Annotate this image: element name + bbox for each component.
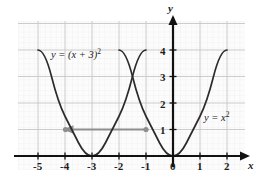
x-tick-label-2: 2 [224, 161, 230, 172]
y-axis-label: y [168, 3, 173, 14]
y-tick-label-3: 3 [160, 72, 166, 83]
arrow-end-dot [63, 127, 68, 132]
x-tick-label-1: 1 [197, 161, 203, 172]
x-tick-label--5: -5 [33, 161, 42, 172]
parabola-plot [0, 0, 263, 181]
x-axis-label: x [248, 160, 254, 171]
y-tick-label-2: 2 [160, 99, 166, 110]
y-tick-label-4: 4 [160, 46, 166, 57]
x-tick-label--2: -2 [114, 161, 123, 172]
x-tick-label--3: -3 [87, 161, 96, 172]
x-tick-label--4: -4 [60, 161, 69, 172]
minor-gridlines [18, 21, 245, 170]
curve-label-right-exponent: 2 [226, 110, 230, 119]
y-tick-label-1: 1 [160, 125, 166, 136]
arrow-start-dot [143, 127, 148, 132]
curve-label-left-parabola: y = (x + 3)2 [51, 50, 101, 61]
x-tick-label--1: -1 [141, 161, 150, 172]
x-tick-label-0: 0 [170, 161, 176, 172]
curve-label-right-parabola: y = x2 [204, 113, 229, 124]
curve-label-right-text: y = x [204, 112, 226, 123]
curve-label-left-exponent: 2 [97, 47, 101, 56]
graph-figure: -5 -4 -3 -2 -1 0 1 2 1 2 3 4 x y y = (x … [0, 0, 263, 181]
curve-label-left-text: y = (x + 3) [51, 49, 97, 60]
